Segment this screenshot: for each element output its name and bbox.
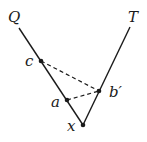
point-c [39, 59, 44, 64]
label-T: T [128, 8, 139, 26]
line-T [83, 27, 130, 125]
label-Q: Q [8, 8, 20, 26]
point-a [65, 98, 70, 103]
diagram-canvas: Q T c a b′ x [0, 0, 147, 142]
point-x [81, 123, 86, 128]
point-bprime [97, 89, 102, 94]
label-bprime: b′ [109, 83, 123, 101]
label-c: c [25, 52, 34, 70]
label-a: a [51, 93, 60, 111]
dashed-c-bprime [41, 61, 99, 91]
label-x: x [67, 117, 76, 135]
diagram-svg: Q T c a b′ x [0, 0, 147, 142]
dashed-a-bprime [67, 91, 99, 100]
